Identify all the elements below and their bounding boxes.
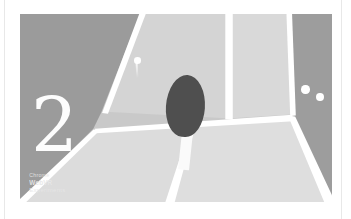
- page-rule-left: [4, 0, 5, 219]
- watermark: Chrome WebVR Experiments: [29, 172, 65, 194]
- watermark-sub: Experiments: [29, 187, 65, 195]
- ball-wall-b-icon: [316, 93, 324, 102]
- watermark-brand: WebVR: [29, 179, 65, 187]
- page-rule-right: [341, 0, 342, 219]
- page-root: 2 Chrome WebVR Experiments: [0, 0, 351, 219]
- ball-in-flight-icon: [134, 57, 141, 64]
- ball-wall-a-icon: [301, 85, 309, 94]
- score-numeral: 2: [31, 95, 76, 156]
- vr-scene-image: 2 Chrome WebVR Experiments: [20, 14, 332, 202]
